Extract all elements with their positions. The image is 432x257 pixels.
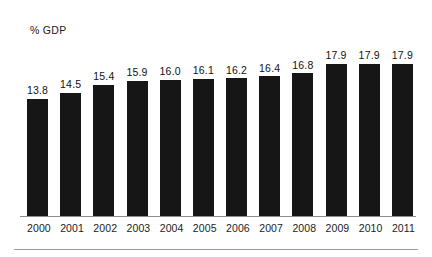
bar-rect[interactable]	[27, 99, 48, 217]
x-tick-label: 2008	[292, 222, 313, 234]
bar-rect[interactable]	[93, 85, 114, 216]
x-tick-label: 2007	[259, 222, 280, 234]
x-tick-label: 2004	[160, 222, 181, 234]
x-tick-label: 2010	[359, 222, 380, 234]
x-tick-label: 2011	[392, 222, 413, 234]
bar-group[interactable]: 16.8	[292, 34, 313, 216]
bar-group[interactable]: 16.1	[193, 34, 214, 216]
x-tick-label: 2000	[27, 222, 48, 234]
bar-value-label: 16.1	[193, 65, 214, 76]
x-tick-label: 2003	[127, 222, 148, 234]
bar-group[interactable]: 17.9	[359, 34, 380, 216]
bar-group[interactable]: 17.9	[326, 34, 347, 216]
footer-divider-rule	[14, 249, 418, 250]
bar-value-label: 16.0	[160, 66, 181, 77]
bar-rect[interactable]	[60, 93, 81, 216]
bar-group[interactable]: 15.9	[127, 34, 148, 216]
bar-value-label: 14.5	[60, 79, 81, 90]
plot-area: 13.814.515.415.916.016.116.216.416.817.9…	[24, 34, 416, 216]
bar-rect[interactable]	[127, 81, 148, 216]
bar-value-label: 16.8	[292, 60, 313, 71]
bar-value-label: 15.9	[126, 67, 147, 78]
bar-group[interactable]: 16.2	[226, 34, 247, 216]
bar-value-label: 13.8	[27, 85, 48, 96]
bar-value-label: 17.9	[325, 50, 346, 61]
bar-rect[interactable]	[292, 73, 313, 216]
bar-chart-figure: % GDP 13.814.515.415.916.016.116.216.416…	[0, 0, 432, 257]
bar-rect[interactable]	[226, 78, 247, 216]
x-axis-tick-labels: 2000200120022003200420052006200720082009…	[24, 222, 416, 234]
bar-value-label: 17.9	[392, 50, 413, 61]
x-tick-label: 2002	[93, 222, 114, 234]
x-tick-label: 2005	[193, 222, 214, 234]
bar-group[interactable]: 16.0	[160, 34, 181, 216]
x-tick-label: 2006	[226, 222, 247, 234]
bar-group[interactable]: 15.4	[93, 34, 114, 216]
x-axis-baseline	[20, 216, 416, 217]
bar-rect[interactable]	[359, 64, 380, 216]
bar-rect[interactable]	[259, 76, 280, 216]
bars-container: 13.814.515.415.916.016.116.216.416.817.9…	[24, 34, 416, 216]
bar-rect[interactable]	[326, 64, 347, 216]
bar-value-label: 17.9	[359, 50, 380, 61]
bar-group[interactable]: 13.8	[27, 34, 48, 216]
bar-value-label: 15.4	[93, 71, 114, 82]
bar-rect[interactable]	[193, 79, 214, 216]
bar-rect[interactable]	[160, 80, 181, 216]
bar-rect[interactable]	[392, 64, 413, 216]
x-tick-label: 2009	[326, 222, 347, 234]
bar-group[interactable]: 17.9	[392, 34, 413, 216]
bar-value-label: 16.2	[226, 65, 247, 76]
x-tick-label: 2001	[60, 222, 81, 234]
bar-group[interactable]: 14.5	[60, 34, 81, 216]
bar-value-label: 16.4	[259, 63, 280, 74]
bar-group[interactable]: 16.4	[259, 34, 280, 216]
